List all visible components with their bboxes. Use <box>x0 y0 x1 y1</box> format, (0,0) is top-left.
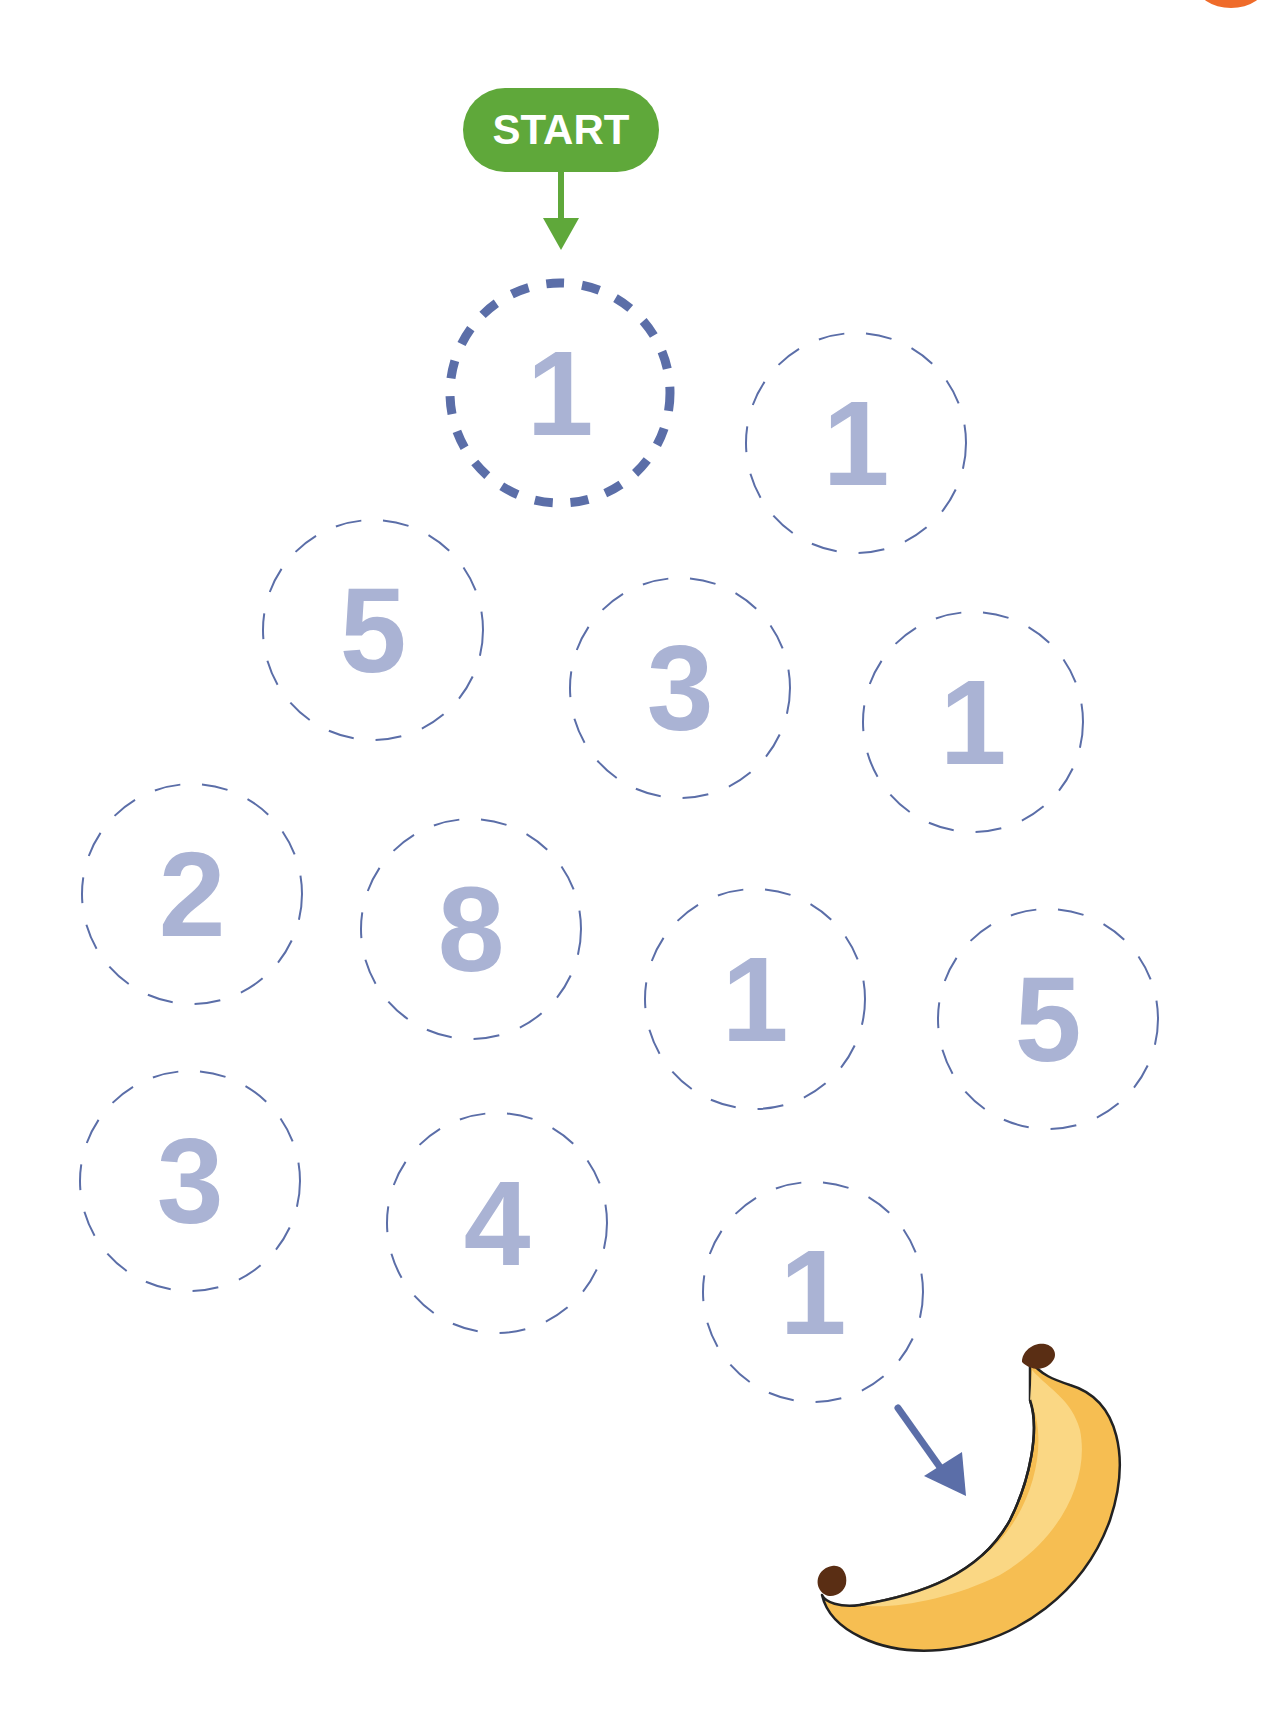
maze-cell[interactable]: 1 <box>740 327 972 559</box>
banana-icon[interactable] <box>800 1340 1140 1660</box>
maze-cell[interactable]: 4 <box>381 1107 613 1339</box>
maze-cell[interactable]: 5 <box>932 903 1164 1135</box>
maze-cell[interactable]: 2 <box>76 778 308 1010</box>
maze-cell[interactable]: 1 <box>444 277 676 509</box>
cell-number: 1 <box>857 606 1089 838</box>
maze-cell[interactable]: 8 <box>355 813 587 1045</box>
cell-number: 1 <box>639 883 871 1115</box>
cell-number: 3 <box>74 1065 306 1297</box>
maze-cell[interactable]: 3 <box>564 572 796 804</box>
maze-cell[interactable]: 1 <box>639 883 871 1115</box>
maze-cell[interactable]: 3 <box>74 1065 306 1297</box>
cell-number: 5 <box>932 903 1164 1135</box>
cell-number: 1 <box>444 277 676 509</box>
maze-cell[interactable]: 1 <box>857 606 1089 838</box>
cell-number: 3 <box>564 572 796 804</box>
maze-cell[interactable]: 5 <box>257 514 489 746</box>
cell-number: 4 <box>381 1107 613 1339</box>
cell-number: 8 <box>355 813 587 1045</box>
cell-number: 5 <box>257 514 489 746</box>
cell-number: 1 <box>740 327 972 559</box>
cell-number: 2 <box>76 778 308 1010</box>
